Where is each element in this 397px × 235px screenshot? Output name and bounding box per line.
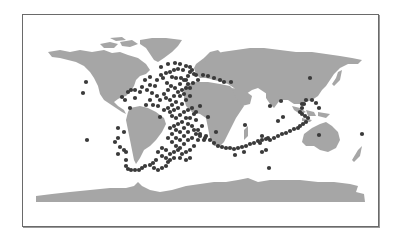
observation-point: [182, 142, 186, 146]
observation-point: [186, 122, 190, 126]
observation-point: [198, 104, 202, 108]
observation-point: [196, 138, 200, 142]
observation-point: [194, 132, 198, 136]
observation-point: [164, 148, 168, 152]
observation-point: [191, 81, 195, 85]
observation-point: [268, 104, 272, 108]
observation-point: [188, 116, 192, 120]
observation-point: [176, 67, 180, 71]
observation-point: [200, 124, 204, 128]
observation-point: [122, 130, 126, 134]
observation-point: [180, 88, 184, 92]
observation-point: [151, 103, 155, 107]
observation-point: [164, 71, 168, 75]
observation-point: [182, 134, 186, 138]
observation-point: [178, 94, 182, 98]
observation-point: [190, 106, 194, 110]
observation-point: [176, 148, 180, 152]
observation-point: [174, 76, 178, 80]
observation-point: [194, 118, 198, 122]
observation-point: [192, 144, 196, 148]
observation-point: [184, 150, 188, 154]
observation-point: [148, 75, 152, 79]
observation-point: [198, 134, 202, 138]
observation-point: [170, 140, 174, 144]
observation-point: [184, 116, 188, 120]
observation-point: [168, 126, 172, 130]
observation-point: [154, 158, 158, 162]
observation-point: [186, 108, 190, 112]
observation-point: [85, 138, 89, 142]
observation-point: [168, 110, 172, 114]
observation-point: [192, 72, 196, 76]
observation-point: [180, 102, 184, 106]
observation-point: [174, 136, 178, 140]
observation-point: [184, 86, 188, 90]
observation-point: [184, 64, 188, 68]
observation-point: [188, 148, 192, 152]
observation-point: [224, 146, 228, 150]
observation-point: [174, 116, 178, 120]
observation-point: [281, 115, 285, 119]
observation-point: [182, 92, 186, 96]
observation-point: [260, 134, 264, 138]
observation-point: [208, 138, 212, 142]
observation-point: [116, 136, 120, 140]
observation-point: [120, 95, 124, 99]
observation-point: [160, 146, 164, 150]
world-map: [0, 0, 397, 235]
observation-point: [166, 88, 170, 92]
australia-landmass: [302, 122, 340, 152]
observation-point: [310, 98, 314, 102]
observation-point: [272, 136, 276, 140]
observation-point: [186, 82, 190, 86]
observation-point: [166, 106, 170, 110]
observation-point: [243, 123, 247, 127]
observation-point: [179, 76, 183, 80]
observation-point: [165, 81, 169, 85]
observation-point: [148, 83, 152, 87]
observation-point: [196, 128, 200, 132]
observation-point: [81, 91, 85, 95]
observation-point: [229, 80, 233, 84]
north-america-landmass: [48, 50, 150, 114]
observation-point: [172, 156, 176, 160]
observation-point: [160, 154, 164, 158]
observation-point: [212, 141, 216, 145]
observation-point: [168, 98, 172, 102]
observation-point: [288, 129, 292, 133]
observation-point: [314, 101, 318, 105]
observation-point: [170, 114, 174, 118]
observation-point: [129, 88, 133, 92]
observation-point: [170, 103, 174, 107]
observation-point: [166, 160, 170, 164]
observation-point: [298, 110, 302, 114]
observation-point: [162, 108, 166, 112]
observation-point: [172, 94, 176, 98]
observation-point: [169, 84, 173, 88]
greenland-landmass: [140, 38, 182, 62]
observation-point: [216, 144, 220, 148]
observation-point: [233, 153, 237, 157]
observation-point: [248, 142, 252, 146]
observation-point: [258, 141, 262, 145]
observation-point: [240, 145, 244, 149]
observation-point: [178, 156, 182, 160]
observation-point: [190, 124, 194, 128]
observation-point: [292, 127, 296, 131]
observation-point: [186, 138, 190, 142]
observation-point: [174, 128, 178, 132]
observation-point: [194, 110, 198, 114]
observation-point: [144, 103, 148, 107]
observation-point: [184, 78, 188, 82]
observation-point: [266, 136, 270, 140]
observation-point: [124, 150, 128, 154]
observation-point: [156, 150, 160, 154]
observation-point: [186, 130, 190, 134]
observation-point: [124, 158, 128, 162]
observation-point: [148, 98, 152, 102]
observation-point: [188, 70, 192, 74]
observation-point: [280, 132, 284, 136]
observation-point: [174, 100, 178, 104]
observation-point: [173, 61, 177, 65]
